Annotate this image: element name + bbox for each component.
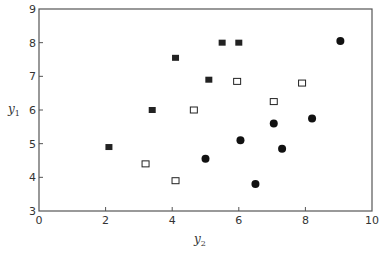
x-tick-label: 8 [302,214,309,227]
x-axis-ticks: 0246810 [36,207,380,227]
circle-marker-icon [336,37,344,45]
filled-square-marker-icon [172,55,179,61]
filled-square-marker-icon [149,107,156,113]
circle-marker-icon [278,145,286,153]
x-tick-label: 0 [36,214,43,227]
x-tick-label: 2 [102,214,109,227]
y-axis-label: y1 [7,102,20,118]
open-square-marker-icon [190,107,197,113]
circle-marker-icon [308,114,316,122]
y-tick-label: 5 [29,138,36,151]
filled-square-marker-icon [219,40,226,46]
open-square-marker-icon [234,78,241,84]
x-tick-label: 10 [365,214,379,227]
y-tick-label: 7 [29,70,36,83]
open-square-marker-icon [142,161,149,167]
scatter-chart: 0246810 3456789 y2 y1 [0,0,387,254]
y-axis-ticks: 3456789 [29,3,43,218]
filled-square-marker-icon [205,77,212,83]
filled-square-marker-icon [235,40,242,46]
x-tick-label: 4 [169,214,176,227]
circle-marker-icon [202,155,210,163]
y-tick-label: 6 [29,104,36,117]
filled-square-marker-icon [105,144,112,150]
plot-frame [39,9,372,211]
circle-marker-icon [236,136,244,144]
y-tick-label: 4 [29,171,36,184]
y-tick-label: 9 [29,3,36,16]
open-square-marker-icon [172,178,179,184]
y-tick-label: 3 [29,205,36,218]
y-tick-label: 8 [29,37,36,50]
x-tick-label: 6 [235,214,242,227]
data-points [105,37,344,188]
circle-marker-icon [251,180,259,188]
x-axis-label: y2 [193,232,206,248]
circle-marker-icon [270,119,278,127]
open-square-marker-icon [270,99,277,105]
open-square-marker-icon [299,80,306,86]
